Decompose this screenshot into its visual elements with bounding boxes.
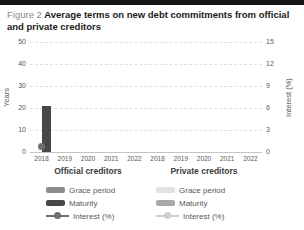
plot-area — [30, 42, 262, 153]
legend-item: Maturity — [46, 199, 115, 207]
gridline — [30, 108, 262, 109]
group-title-official: Official creditors — [30, 166, 146, 176]
legend-item: Maturity — [156, 199, 225, 207]
legend-label: Interest (%) — [183, 212, 224, 221]
x-axis-tick: 2020 — [193, 155, 215, 162]
legend-item: Interest (%) — [46, 212, 115, 220]
x-axis-tick: 2021 — [216, 155, 238, 162]
left-axis-tick: 50 — [0, 38, 26, 46]
legend-label: Maturity — [179, 199, 207, 208]
legend-swatch — [156, 187, 175, 193]
left-axis-tick: 40 — [0, 60, 26, 68]
gridline — [30, 64, 262, 65]
x-axis-tick: 2022 — [239, 155, 261, 162]
legend-line-marker — [54, 212, 61, 219]
x-axis-tick: 2019 — [170, 155, 192, 162]
legend-swatch — [46, 187, 65, 193]
figure-2-chart-panel: Figure 2 Average terms on new debt commi… — [0, 0, 304, 230]
x-axis-tick: 2022 — [123, 155, 145, 162]
legend-column-private: Grace periodMaturityInterest (%) — [156, 186, 225, 225]
left-axis-tick: 20 — [0, 104, 26, 112]
legend-item: Grace period — [156, 186, 225, 194]
legend-item: Grace period — [46, 186, 115, 194]
figure-number: Figure 2 — [7, 9, 42, 20]
x-axis-tick: 2020 — [77, 155, 99, 162]
x-axis-tick: 2018 — [147, 155, 169, 162]
right-axis-tick: 3 — [266, 126, 270, 134]
legend-line-marker — [164, 212, 171, 219]
legend-line-swatch — [156, 212, 179, 220]
legend-label: Interest (%) — [73, 212, 114, 221]
legend-column-official: Grace periodMaturityInterest (%) — [46, 186, 115, 225]
legend-line-swatch — [46, 212, 69, 220]
x-axis-tick: 2018 — [31, 155, 53, 162]
right-axis-label: Interest (%) — [284, 76, 293, 120]
right-axis-tick: 9 — [266, 82, 270, 90]
left-axis-tick: 10 — [0, 126, 26, 134]
group-title-private: Private creditors — [146, 166, 262, 176]
gridline — [30, 130, 262, 131]
gridline — [30, 42, 262, 43]
left-axis-tick: 30 — [0, 82, 26, 90]
top-divider-bar — [0, 0, 304, 5]
legend-item: Interest (%) — [156, 212, 225, 220]
x-axis-tick: 2021 — [100, 155, 122, 162]
gridline — [30, 86, 262, 87]
right-axis-tick: 15 — [266, 38, 274, 46]
legend-swatch — [46, 200, 65, 206]
right-axis-tick: 6 — [266, 104, 270, 112]
legend-label: Grace period — [69, 186, 115, 195]
figure-title-text: Average terms on new debt commitments fr… — [7, 9, 289, 32]
left-axis-tick: 0 — [0, 148, 26, 156]
legend-label: Maturity — [69, 199, 97, 208]
legend-swatch — [156, 200, 175, 206]
legend-label: Grace period — [179, 186, 225, 195]
right-axis-tick: 12 — [266, 60, 274, 68]
right-axis-tick: 0 — [266, 148, 270, 156]
figure-title: Figure 2 Average terms on new debt commi… — [7, 9, 300, 32]
x-axis-tick: 2019 — [54, 155, 76, 162]
